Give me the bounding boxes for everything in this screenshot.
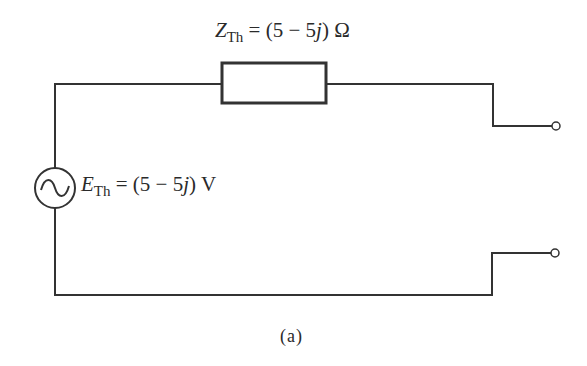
impedance-label: ZTh = (5 − 5j) Ω: [215, 18, 350, 43]
impedance-box: [222, 63, 326, 103]
sine-wave-icon: [41, 180, 69, 196]
figure-caption: (a): [280, 326, 303, 347]
source-tail: ) V: [189, 172, 216, 196]
wire-top-right: [326, 84, 552, 126]
wire-top-left: [55, 84, 222, 168]
source-subscript: Th: [94, 183, 111, 199]
impedance-equals: = (5 − 5: [249, 18, 316, 42]
wire-bottom: [55, 208, 551, 295]
source-label: ETh = (5 − 5j) V: [81, 172, 216, 197]
source-symbol: E: [81, 172, 94, 196]
impedance-subscript: Th: [227, 29, 244, 45]
terminal-bottom[interactable]: [551, 249, 559, 257]
terminal-top[interactable]: [552, 122, 560, 130]
impedance-symbol: Z: [215, 18, 227, 42]
impedance-tail: ) Ω: [322, 18, 350, 42]
source-equals: = (5 − 5: [116, 172, 183, 196]
